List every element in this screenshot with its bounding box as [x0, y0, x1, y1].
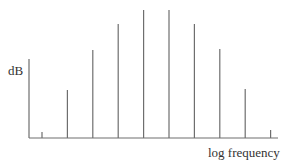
- spectrum-diagram: dB log frequency: [0, 0, 294, 161]
- x-axis-label: log frequency: [208, 145, 280, 160]
- spectral-lines: [42, 10, 271, 138]
- y-axis-label: dB: [8, 63, 24, 78]
